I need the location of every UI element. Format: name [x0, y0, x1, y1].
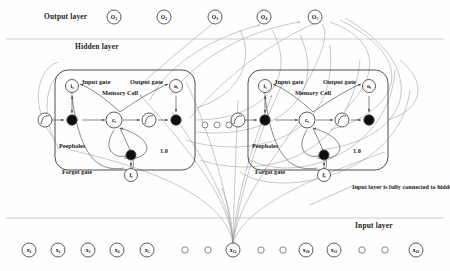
block2-output-gate-label: Output gate	[323, 78, 356, 85]
block1-output-gate-label: Output gate	[130, 78, 163, 85]
ellipsis-dots	[202, 122, 232, 128]
block2-forget-gate-label: Forget gate	[255, 168, 285, 175]
annotation-leader-line	[310, 186, 352, 205]
hidden-layer-label: Hidden layer	[75, 42, 119, 51]
fully-connected-annotation: Input layer is fully connected to hidden…	[352, 183, 446, 191]
block1-memory-cell-label: Memory Cell	[102, 89, 136, 97]
output-layer-nodes: O1 O2 O3 O4 O5	[107, 10, 322, 24]
long-connections	[38, 18, 418, 243]
input-layer-label: Input layer	[355, 221, 393, 230]
lstm-architecture-diagram: it ot ft ct	[0, 0, 450, 271]
block1-forget-gate-label: Forget gate	[62, 168, 92, 175]
memory-block-1: it ot ft ct	[0, 0, 195, 182]
output-layer-label: Output layer	[44, 12, 87, 21]
block2-input-gate-label: Input gate	[275, 78, 303, 85]
block2-memory-cell-label: Memory Cell	[295, 89, 329, 97]
memory-block-2: it ot ft ct	[231, 70, 388, 182]
block1-recurrent-weight-label: 1.0	[160, 147, 168, 154]
input-layer-nodes: x1 x2 x3 x4 x5 x12 x30 x31 x41	[22, 243, 423, 257]
block1-input-gate-label: Input gate	[82, 78, 110, 85]
diagram-canvas: it ot ft ct	[0, 0, 450, 271]
block2-peepholes-label: Peepholes	[252, 142, 278, 149]
block2-recurrent-weight-label: 1.0	[353, 147, 361, 154]
block1-peepholes-label: Peepholes	[59, 142, 85, 149]
